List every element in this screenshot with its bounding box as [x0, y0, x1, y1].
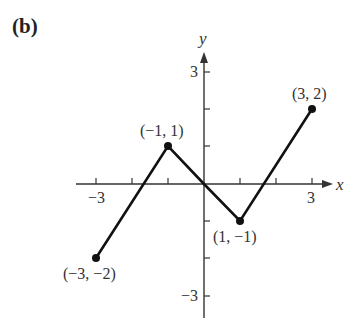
point-marker: [92, 254, 100, 262]
y-tick-label: 3: [190, 64, 198, 80]
point-marker: [308, 105, 316, 113]
y-axis-label: y: [199, 30, 207, 47]
x-axis-arrow-icon: [322, 180, 333, 188]
x-tick-label: 3: [307, 190, 315, 206]
x-tick-label: −3: [88, 190, 105, 206]
graph-canvas: [0, 0, 357, 324]
y-tick-label: −3: [181, 288, 198, 304]
y-axis-arrow-icon: [200, 52, 208, 63]
point-label: (−3, −2): [63, 266, 116, 282]
point-label: (3, 2): [292, 86, 327, 102]
point-marker: [236, 217, 244, 225]
point-marker: [164, 142, 172, 150]
point-label: (1, −1): [213, 229, 257, 245]
x-axis-label: x: [336, 176, 344, 193]
point-label: (−1, 1): [140, 123, 184, 139]
